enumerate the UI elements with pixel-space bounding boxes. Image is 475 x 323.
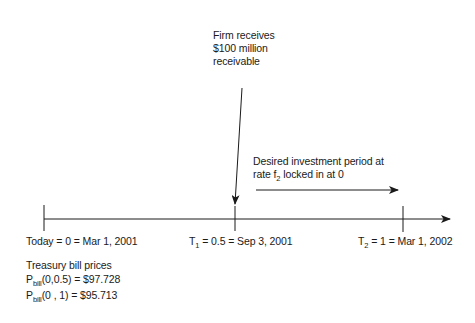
price-row-one-year: Pbill(0 , 1) = $95.713 xyxy=(26,289,120,302)
label-t2: T2 = 1 = Mar 1, 2002 xyxy=(358,235,452,248)
price-row-half-year: Pbill(0,0.5) = $97.728 xyxy=(26,273,120,286)
treasury-prices-title: Treasury bill prices xyxy=(26,259,120,272)
investment-period-note: Desired investment period at rate f2 loc… xyxy=(253,155,384,181)
treasury-prices-block: Treasury bill prices Pbill(0,0.5) = $97.… xyxy=(26,259,120,302)
firm-receives-note: Firm receives $100 million receivable xyxy=(213,29,275,68)
investment-period-line-2: rate f2 locked in at 0 xyxy=(253,168,384,181)
firm-receives-line-2: $100 million xyxy=(213,42,275,55)
receivable-arrow xyxy=(235,88,242,204)
label-today: Today = 0 = Mar 1, 2001 xyxy=(26,235,138,248)
firm-receives-line-3: receivable xyxy=(213,55,275,68)
investment-period-line-1: Desired investment period at xyxy=(253,155,384,168)
firm-receives-line-1: Firm receives xyxy=(213,29,275,42)
label-t1: T1 = 0.5 = Sep 3, 2001 xyxy=(189,235,293,248)
